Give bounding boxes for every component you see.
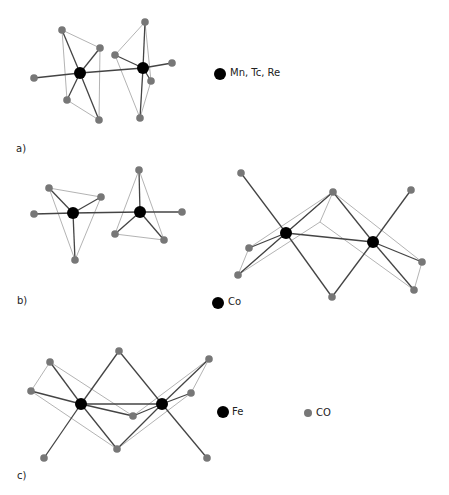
co-ligand-atom bbox=[147, 77, 155, 85]
bond bbox=[139, 170, 140, 212]
co-ligand-atom bbox=[113, 445, 121, 453]
metal-atom bbox=[67, 207, 79, 219]
co-ligand-atom bbox=[63, 96, 71, 104]
co-ligand-atom bbox=[129, 412, 137, 420]
bond bbox=[286, 233, 373, 242]
panel-c-label: c) bbox=[17, 470, 26, 481]
metal-atom bbox=[74, 67, 86, 79]
co-ligand-atom bbox=[178, 208, 186, 216]
bond bbox=[373, 190, 411, 242]
metal-legend-icon bbox=[217, 406, 229, 418]
bond bbox=[75, 197, 101, 260]
legend-co-metal: Co bbox=[228, 296, 241, 307]
co-ligand-atom bbox=[237, 169, 245, 177]
bond bbox=[241, 173, 286, 233]
co-legend-icon bbox=[304, 409, 312, 417]
metal-legend-icon bbox=[214, 68, 226, 80]
metal-atom bbox=[156, 398, 168, 410]
bond bbox=[31, 362, 50, 391]
co-ligand-atom bbox=[160, 236, 168, 244]
bond bbox=[373, 242, 422, 262]
bond bbox=[133, 359, 209, 416]
bond bbox=[191, 359, 209, 393]
bond bbox=[139, 170, 164, 240]
bond bbox=[333, 192, 422, 262]
metal-atom bbox=[137, 62, 149, 74]
co-ligand-atom bbox=[27, 387, 35, 395]
bond bbox=[115, 234, 164, 240]
legend-fe: Fe bbox=[232, 406, 243, 417]
bond bbox=[62, 30, 100, 48]
bond bbox=[373, 242, 414, 290]
co-ligand-atom bbox=[407, 186, 415, 194]
bond bbox=[99, 48, 100, 120]
co-ligand-atom bbox=[329, 188, 337, 196]
bond bbox=[80, 68, 143, 73]
bond bbox=[320, 222, 414, 290]
co-ligand-atom bbox=[168, 59, 176, 67]
co-ligand-atom bbox=[96, 44, 104, 52]
bond bbox=[117, 393, 191, 449]
panel-b-label: b) bbox=[17, 295, 27, 306]
bond bbox=[143, 22, 145, 68]
co-ligand-atom bbox=[45, 184, 53, 192]
bond bbox=[49, 188, 75, 260]
metal-atom bbox=[280, 227, 292, 239]
co-ligand-atom bbox=[30, 74, 38, 82]
bond bbox=[119, 351, 162, 404]
bond bbox=[73, 212, 140, 213]
co-ligand-atom bbox=[58, 26, 66, 34]
co-ligand-atom bbox=[135, 166, 143, 174]
co-ligand-atom bbox=[111, 230, 119, 238]
bond bbox=[162, 404, 207, 458]
bond bbox=[34, 73, 80, 78]
bond bbox=[414, 262, 422, 290]
co-ligand-atom bbox=[245, 244, 253, 252]
co-ligand-atom bbox=[71, 256, 79, 264]
co-ligand-atom bbox=[136, 114, 144, 122]
bond bbox=[67, 100, 99, 120]
co-ligand-atom bbox=[410, 286, 418, 294]
co-ligand-atom bbox=[97, 193, 105, 201]
co-ligand-atom bbox=[141, 18, 149, 26]
legend-mn-tc-re: Mn, Tc, Re bbox=[230, 67, 280, 78]
co-ligand-atom bbox=[205, 355, 213, 363]
legend-carbonyl: CO bbox=[316, 407, 331, 418]
co-ligand-atom bbox=[111, 51, 119, 59]
metal-legend-icon bbox=[212, 297, 224, 309]
co-ligand-atom bbox=[95, 116, 103, 124]
co-ligand-atom bbox=[46, 358, 54, 366]
metal-atom bbox=[134, 206, 146, 218]
co-ligand-atom bbox=[30, 210, 38, 218]
panel-a-label: a) bbox=[16, 143, 26, 154]
bond bbox=[286, 233, 332, 297]
co-ligand-atom bbox=[40, 454, 48, 462]
carbonyl-structures-figure: a) Mn, Tc, Re b) Co c) Fe CO bbox=[0, 0, 449, 495]
bond bbox=[332, 242, 373, 297]
co-ligand-atom bbox=[328, 293, 336, 301]
co-ligand-atom bbox=[115, 347, 123, 355]
bond bbox=[73, 213, 75, 260]
bond bbox=[115, 22, 145, 55]
co-ligand-atom bbox=[418, 258, 426, 266]
bond bbox=[81, 351, 119, 404]
metal-atom bbox=[75, 398, 87, 410]
co-ligand-atom bbox=[203, 454, 211, 462]
bond bbox=[80, 73, 99, 120]
bond bbox=[333, 192, 373, 242]
bond bbox=[115, 170, 139, 234]
metal-atom bbox=[367, 236, 379, 248]
co-ligand-atom bbox=[234, 271, 242, 279]
co-ligand-atom bbox=[187, 389, 195, 397]
bond bbox=[31, 391, 117, 449]
